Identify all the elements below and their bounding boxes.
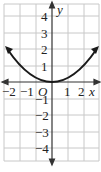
svg-text:4: 4 xyxy=(41,9,48,24)
svg-text:1: 1 xyxy=(64,84,71,99)
svg-text:3: 3 xyxy=(41,26,48,41)
svg-text:−2: −2 xyxy=(2,84,16,99)
svg-text:−3: −3 xyxy=(35,125,49,140)
x-axis-label: x xyxy=(88,84,95,99)
svg-text:1: 1 xyxy=(41,59,48,74)
svg-text:−1: −1 xyxy=(20,84,34,99)
axes xyxy=(2,2,100,165)
svg-text:2: 2 xyxy=(78,84,85,99)
y-axis-label: y xyxy=(55,2,63,17)
svg-text:2: 2 xyxy=(41,42,48,57)
svg-text:−4: −4 xyxy=(35,141,49,156)
tick-labels: y 4 3 2 1 −2 −1 O 1 2 x −1 −2 −3 −4 xyxy=(2,2,95,156)
svg-text:−2: −2 xyxy=(35,108,49,123)
parabola-graph: y 4 3 2 1 −2 −1 O 1 2 x −1 −2 −3 −4 xyxy=(0,0,101,172)
svg-text:−1: −1 xyxy=(35,92,49,107)
